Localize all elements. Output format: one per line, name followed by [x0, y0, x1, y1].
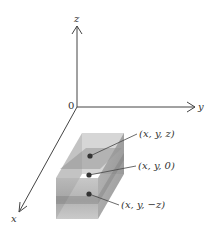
- origin-label: 0: [68, 100, 74, 111]
- point-label-top: (x, y, z): [139, 128, 175, 139]
- point-bottom: [86, 191, 91, 196]
- x-axis-label: x: [11, 213, 17, 224]
- y-axis-label: y: [197, 101, 204, 112]
- z-axis-label: z: [73, 13, 80, 24]
- point-label-bottom: (x, y, −z): [121, 199, 165, 210]
- x-arrowhead-icon: [19, 202, 27, 212]
- point-top: [87, 153, 92, 158]
- point-label-middle: (x, y, 0): [138, 160, 175, 171]
- coordinate-diagram: z y x 0 (x, y, z) (x, y, 0) (x, y, −z): [0, 0, 207, 237]
- point-middle: [86, 172, 91, 177]
